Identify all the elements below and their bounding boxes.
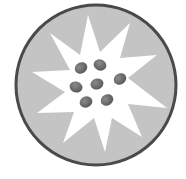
badge-icon-container [0,0,186,179]
starburst-badge-icon [0,0,186,179]
